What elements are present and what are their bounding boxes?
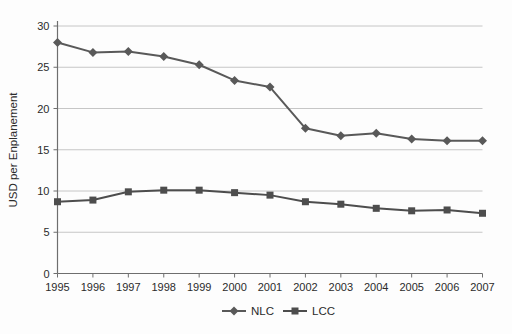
lcc-marker — [125, 188, 132, 195]
lcc-marker — [444, 206, 451, 213]
x-axis-tick-label: 1997 — [116, 281, 140, 293]
legend-lcc-label: LCC — [312, 305, 335, 317]
legend-lcc-marker — [292, 308, 299, 315]
x-axis-tick-label: 2002 — [293, 281, 317, 293]
y-axis-tick-label: 20 — [37, 103, 49, 115]
lcc-marker — [89, 197, 96, 204]
y-axis-tick-label: 15 — [37, 144, 49, 156]
x-axis-tick-label: 1996 — [81, 281, 105, 293]
y-axis-tick-label: 10 — [37, 185, 49, 197]
nlc-marker — [372, 129, 381, 138]
y-axis-tick-label: 30 — [37, 20, 49, 32]
nlc-marker — [478, 136, 487, 145]
nlc-marker — [159, 52, 168, 61]
x-axis-tick-label: 2000 — [222, 281, 246, 293]
x-axis-tick-label: 1995 — [45, 281, 69, 293]
lcc-marker — [54, 198, 61, 205]
chart-svg: 0510152025301995199619971998199920002001… — [0, 0, 512, 334]
lcc-marker — [302, 198, 309, 205]
nlc-marker — [53, 38, 62, 47]
y-axis-title: USD per Enplanement — [7, 92, 19, 208]
lcc-marker — [267, 192, 274, 199]
x-axis-tick-label: 1999 — [187, 281, 211, 293]
nlc-marker — [124, 47, 133, 56]
legend-nlc-marker — [230, 307, 239, 316]
y-axis-tick-label: 0 — [43, 268, 49, 280]
lcc-marker — [408, 207, 415, 214]
lcc-marker — [231, 189, 238, 196]
chart-container: 0510152025301995199619971998199920002001… — [0, 0, 512, 334]
nlc-marker — [443, 136, 452, 145]
x-axis-tick-label: 2003 — [329, 281, 353, 293]
nlc-marker — [230, 76, 239, 85]
x-axis-tick-label: 1998 — [152, 281, 176, 293]
lcc-marker — [160, 187, 167, 194]
nlc-marker — [336, 131, 345, 140]
nlc-marker — [88, 48, 97, 57]
y-axis-tick-label: 5 — [43, 226, 49, 238]
x-axis-tick-label: 2006 — [435, 281, 459, 293]
x-axis-tick-label: 2005 — [399, 281, 423, 293]
nlc-line — [58, 43, 483, 141]
nlc-marker — [195, 60, 204, 69]
y-axis-tick-label: 25 — [37, 61, 49, 73]
lcc-marker — [337, 201, 344, 208]
x-axis-tick-label: 2001 — [258, 281, 282, 293]
lcc-marker — [373, 205, 380, 212]
lcc-marker — [479, 210, 486, 217]
legend-nlc-label: NLC — [251, 305, 274, 317]
lcc-marker — [196, 187, 203, 194]
chart-plot: 0510152025301995199619971998199920002001… — [37, 20, 494, 317]
nlc-marker — [407, 135, 416, 144]
x-axis-tick-label: 2004 — [364, 281, 388, 293]
x-axis-tick-label: 2007 — [470, 281, 494, 293]
